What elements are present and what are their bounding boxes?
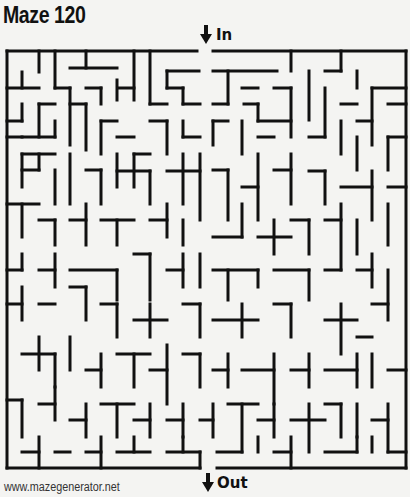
- arrow-down-icon: [201, 473, 215, 493]
- maze-grid[interactable]: [0, 0, 410, 497]
- footer-credit: www.mazegenerator.net: [4, 480, 120, 494]
- exit-label: Out: [217, 474, 248, 492]
